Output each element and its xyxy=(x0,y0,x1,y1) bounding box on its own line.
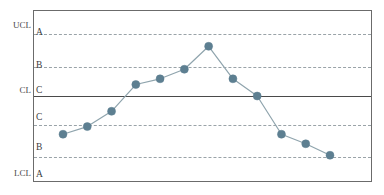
control-chart-figure: UCL CL LCL A B C C B A xyxy=(0,0,384,195)
zone-boundary-lower-c xyxy=(34,125,371,126)
axis-label-cl: CL xyxy=(0,85,31,95)
zone-boundary-upper-a xyxy=(34,34,371,35)
center-line-cl xyxy=(34,96,371,97)
zone-letter-lower-a: A xyxy=(36,169,43,179)
zone-letter-upper-c: C xyxy=(36,85,42,95)
zone-letter-lower-b: B xyxy=(36,142,42,152)
zone-letter-upper-a: A xyxy=(36,27,43,37)
zone-letter-lower-c: C xyxy=(36,112,42,122)
axis-label-ucl: UCL xyxy=(0,20,31,30)
plot-area xyxy=(33,10,372,182)
zone-boundary-upper-b xyxy=(34,67,371,68)
zone-letter-upper-b: B xyxy=(36,60,42,70)
zone-boundary-lower-b xyxy=(34,157,371,158)
axis-label-lcl: LCL xyxy=(0,168,31,178)
